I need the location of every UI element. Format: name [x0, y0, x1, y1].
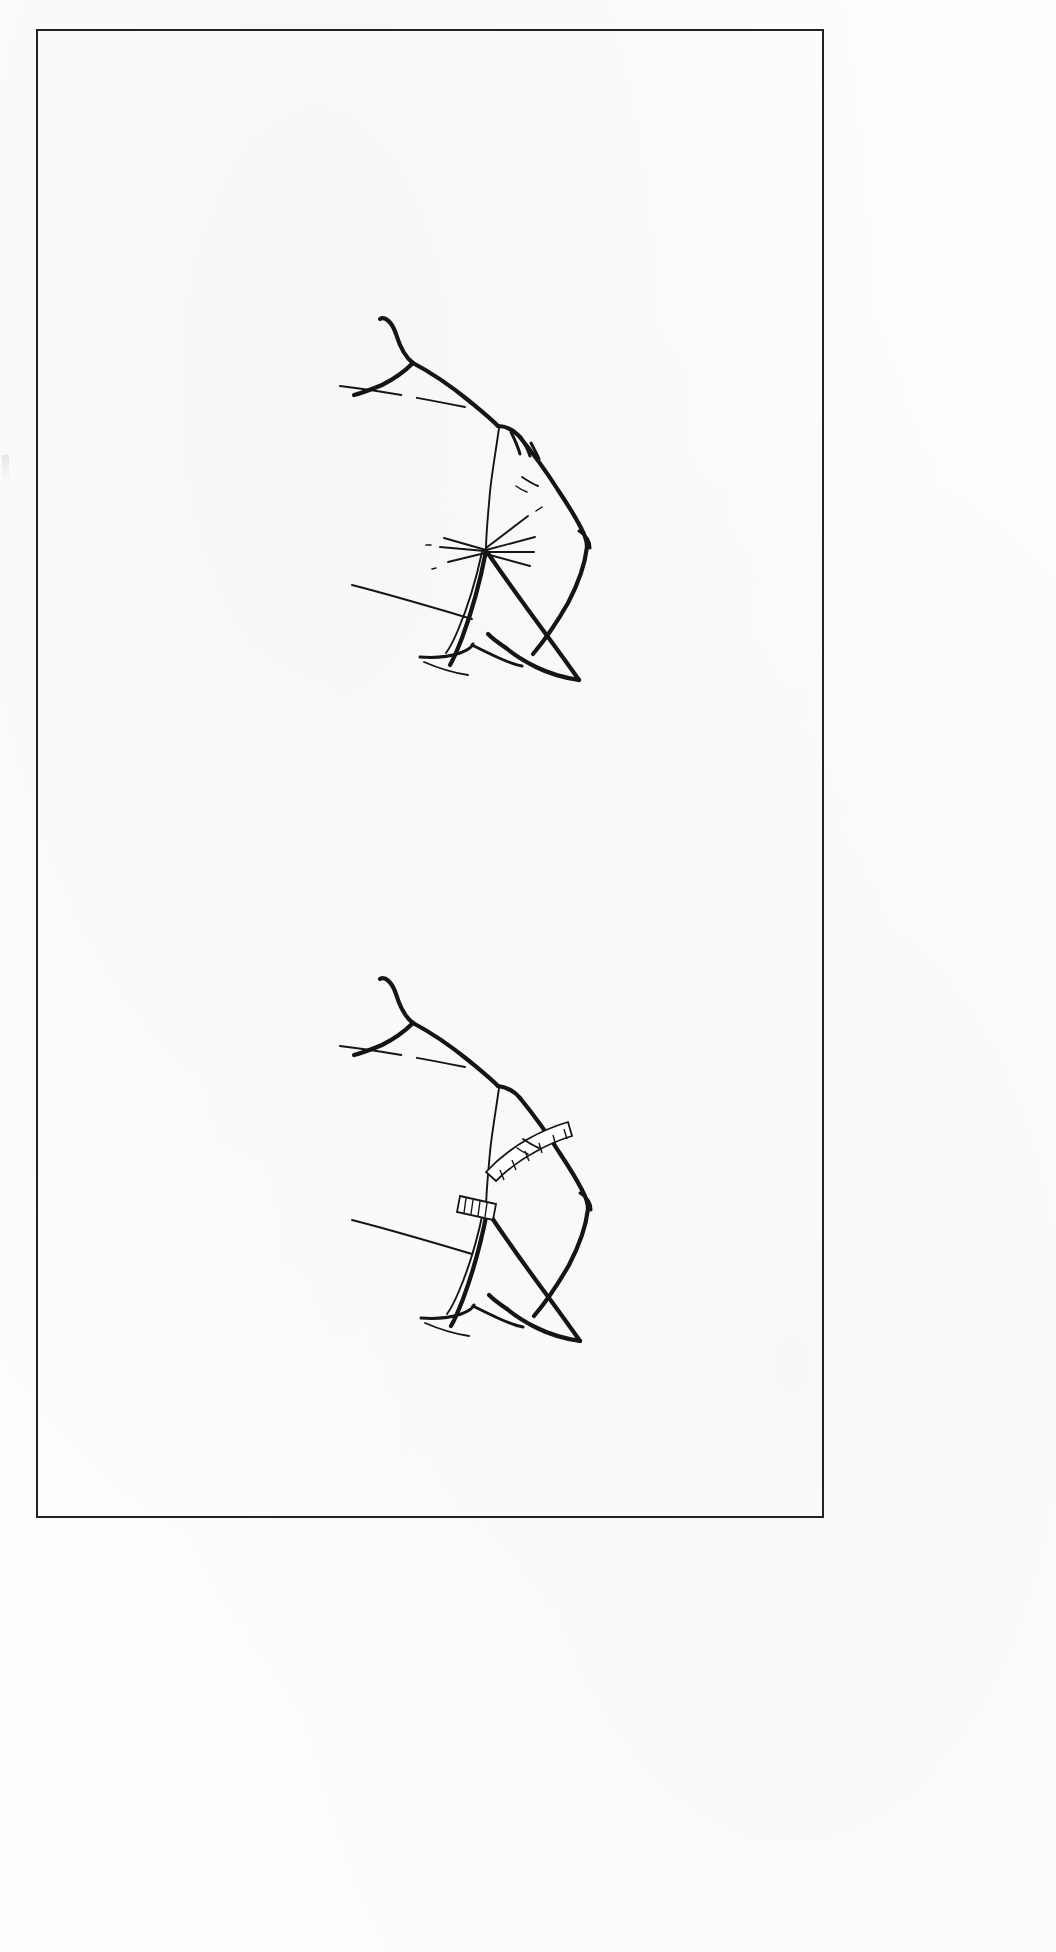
underarm-wrinkle-dot-3 [432, 568, 436, 569]
figure-sleeve-with-tape [300, 860, 660, 1400]
armhole-seam-path [486, 1088, 499, 1210]
figure-sleeve-plain [300, 200, 660, 740]
neck-left-curve [354, 363, 413, 395]
forearm-outer-edge [534, 1209, 588, 1316]
chest-guide-line [340, 386, 465, 407]
waist-guide-line [352, 1220, 472, 1254]
neckline-path [380, 978, 413, 1023]
neckline-path [380, 318, 413, 363]
waist-guide-line [352, 585, 472, 619]
cuff-edge-outer [488, 634, 506, 648]
elbow-crease-2 [516, 486, 527, 492]
armhole-seam-path [486, 428, 499, 550]
cuff-hem-line [425, 1323, 469, 1336]
underarm-seam-path [487, 552, 579, 680]
chest-guide-line [340, 1046, 465, 1067]
shoulder-seam-path [413, 363, 498, 426]
elbow-crease-1 [522, 477, 538, 486]
underarm-wrinkle-dot-1 [536, 507, 542, 511]
cuff-edge-outer [489, 1295, 507, 1309]
neck-left-curve [354, 1023, 413, 1055]
illustration-page [0, 0, 1056, 1952]
tape-measure-around-arm [457, 1196, 496, 1220]
tape-band-arm [457, 1196, 496, 1220]
forearm-outer-edge [533, 547, 587, 654]
shoulder-seam-path [413, 1023, 498, 1086]
shoulder-point-path [498, 1086, 520, 1098]
cuff-hem-line [424, 662, 468, 675]
underarm-seam-path [488, 1212, 580, 1341]
shoulder-point-path [498, 426, 518, 435]
page-edge-speck [2, 455, 9, 481]
underarm-wrinkle-1 [486, 516, 528, 548]
